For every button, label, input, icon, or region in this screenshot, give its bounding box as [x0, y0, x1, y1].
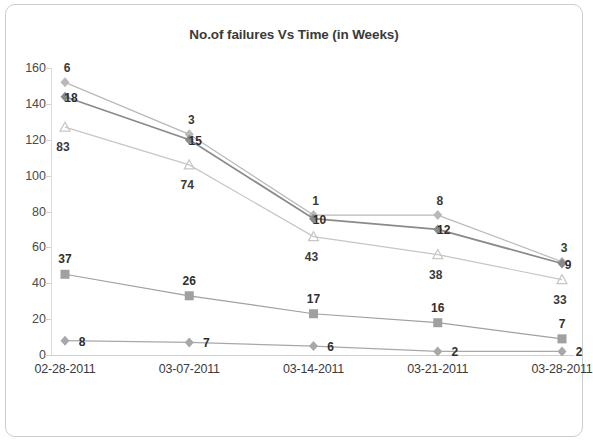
- x-tick-label: 03-28-2011: [531, 362, 592, 376]
- y-tick-mark: [45, 176, 51, 177]
- series-line-series-1-top: [65, 82, 562, 261]
- data-label: 7: [559, 317, 566, 331]
- plot-area: 63183181510129837443383337261716787622: [51, 68, 574, 355]
- data-label: 16: [431, 301, 444, 315]
- data-label: 83: [56, 140, 69, 154]
- data-point-marker: [433, 346, 442, 356]
- series-line-series-2-dark: [65, 97, 562, 264]
- chart-title: No.of failures Vs Time (in Weeks): [6, 27, 582, 42]
- data-point-marker: [433, 210, 442, 220]
- data-label: 2: [451, 345, 458, 359]
- data-point-marker: [309, 309, 318, 318]
- y-tick-mark: [45, 140, 51, 141]
- y-tick-label: 40: [12, 276, 46, 290]
- y-tick-label: 100: [12, 169, 46, 183]
- data-label: 7: [203, 336, 210, 350]
- chart-frame: No.of failures Vs Time (in Weeks) 160140…: [5, 4, 583, 437]
- data-point-marker: [61, 77, 70, 87]
- data-label: 8: [79, 335, 86, 349]
- x-tick-label: 03-14-2011: [283, 362, 344, 376]
- y-tick-label: 0: [12, 348, 46, 362]
- y-tick-label: 60: [12, 240, 46, 254]
- data-label: 9: [565, 258, 572, 272]
- data-label: 2: [576, 345, 583, 359]
- data-label: 74: [181, 178, 194, 192]
- y-tick-mark: [45, 355, 51, 356]
- data-label: 6: [327, 340, 334, 354]
- data-point-marker: [60, 122, 70, 131]
- y-tick-mark: [45, 104, 51, 105]
- y-tick-label: 80: [12, 205, 46, 219]
- y-tick-mark: [45, 68, 51, 69]
- data-point-marker: [433, 318, 442, 327]
- x-axis: 02-28-201103-07-201103-14-201103-21-2011…: [51, 362, 574, 384]
- y-tick-mark: [45, 283, 51, 284]
- data-label: 26: [183, 274, 196, 288]
- data-label: 1: [312, 194, 319, 208]
- data-label: 43: [305, 250, 318, 264]
- data-label: 3: [561, 241, 568, 255]
- y-tick-mark: [45, 247, 51, 248]
- data-label: 6: [64, 61, 71, 75]
- data-label: 3: [188, 113, 195, 127]
- data-label: 15: [189, 134, 202, 148]
- data-label: 12: [437, 223, 450, 237]
- x-tick-label: 02-28-2011: [34, 362, 95, 376]
- series-lines: [51, 68, 574, 355]
- data-label: 38: [429, 268, 442, 282]
- data-point-marker: [185, 291, 194, 300]
- data-point-marker: [558, 334, 567, 343]
- data-label: 33: [553, 293, 566, 307]
- x-tick-label: 03-07-2011: [159, 362, 220, 376]
- data-label: 8: [436, 194, 443, 208]
- x-tick-label: 03-21-2011: [407, 362, 468, 376]
- data-point-marker: [558, 346, 567, 356]
- data-point-marker: [61, 336, 70, 346]
- data-label: 18: [64, 91, 77, 105]
- data-label: 37: [58, 252, 71, 266]
- data-point-marker: [61, 270, 70, 279]
- y-tick-mark: [45, 212, 51, 213]
- x-axis-line: [51, 355, 574, 356]
- y-tick-label: 140: [12, 97, 46, 111]
- data-label: 17: [307, 292, 320, 306]
- data-label: 10: [313, 213, 326, 227]
- y-tick-mark: [45, 319, 51, 320]
- y-tick-label: 20: [12, 312, 46, 326]
- data-point-marker: [185, 337, 194, 347]
- series-line-series-4-square: [65, 274, 562, 339]
- y-tick-label: 120: [12, 133, 46, 147]
- y-tick-label: 160: [12, 61, 46, 75]
- y-axis: 160140120100806040200: [6, 68, 46, 355]
- data-point-marker: [309, 341, 318, 351]
